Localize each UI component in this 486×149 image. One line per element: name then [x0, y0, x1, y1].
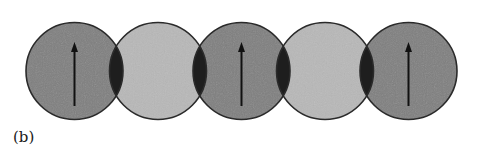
panel-label: (b)	[13, 128, 34, 146]
sphere-chain-diagram	[0, 0, 486, 149]
